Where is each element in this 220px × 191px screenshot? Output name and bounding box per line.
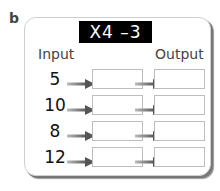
input-value: 12 (40, 147, 70, 167)
output-box[interactable] (154, 147, 205, 167)
panel-label: b (9, 10, 19, 26)
input-value: 8 (40, 121, 70, 141)
output-box[interactable] (154, 69, 205, 89)
output-header: Output (155, 46, 204, 62)
machine-title: X4 –3 (79, 21, 152, 43)
input-header: Input (38, 46, 74, 62)
output-box[interactable] (154, 95, 205, 115)
output-box[interactable] (154, 121, 205, 141)
input-value: 10 (40, 95, 70, 115)
input-value: 5 (40, 69, 70, 89)
